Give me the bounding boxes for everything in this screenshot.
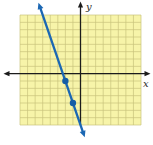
graph-figure: y x: [0, 0, 153, 145]
coordinate-plane: y x: [0, 0, 153, 145]
data-point: [62, 78, 68, 84]
y-axis-label: y: [85, 1, 92, 12]
data-point: [70, 100, 76, 106]
x-axis-label: x: [143, 78, 149, 89]
